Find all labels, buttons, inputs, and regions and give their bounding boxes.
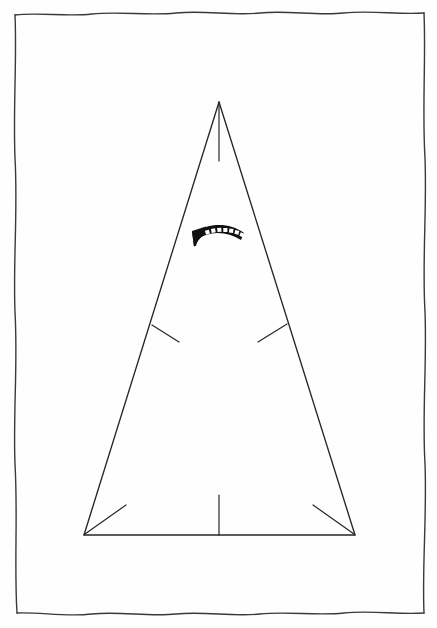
left-mid-tick [152,325,179,342]
notch-3 [217,228,221,232]
border-bottom-edge [17,612,424,615]
notch-5 [229,229,234,233]
base-left-corner-tick [85,505,126,534]
hand-drawn-border [14,12,425,615]
drawing-canvas: Hand-drawn triangle diagram [0,0,437,628]
notch-4 [223,228,227,232]
right-leg [219,102,355,535]
figure-svg [0,0,437,628]
border-top-edge [15,12,424,15]
triangle-figure [84,102,355,535]
border-right-edge [424,13,426,613]
curved-arrow [192,225,244,247]
left-leg [84,102,219,535]
curved-arrow-head [192,227,206,247]
base-right-corner-tick [313,505,354,534]
right-mid-tick [258,324,287,342]
border-left-edge [14,15,17,613]
notch-2 [211,228,216,233]
